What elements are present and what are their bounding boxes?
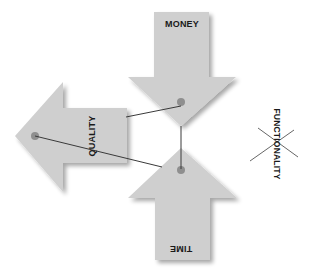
diagram-svg	[0, 0, 316, 279]
time-label: TIME	[170, 244, 192, 254]
money-dot	[177, 98, 185, 106]
diagram-canvas: MONEY QUALITY TIME FUNCTIONALITY	[0, 0, 316, 279]
money-label: MONEY	[165, 19, 199, 29]
money-arrow	[128, 12, 236, 126]
functionality-label: FUNCTIONALITY	[272, 108, 282, 179]
quality-label: QUALITY	[87, 116, 97, 157]
